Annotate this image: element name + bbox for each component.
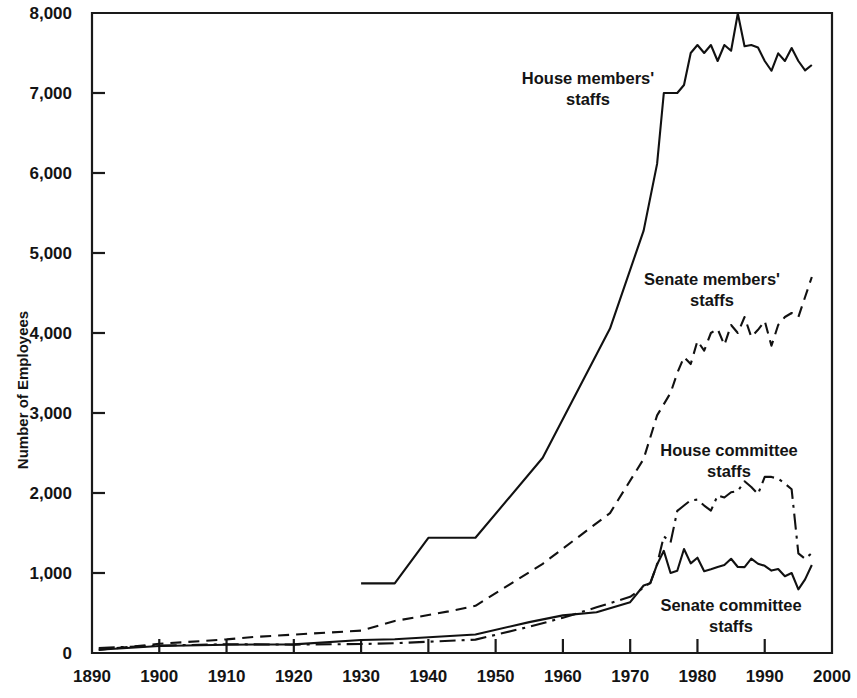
x-tick-label: 1910 bbox=[208, 667, 246, 686]
plot-frame bbox=[92, 13, 832, 653]
y-axis-title: Number of Employees bbox=[14, 311, 31, 469]
x-tick-label: 2000 bbox=[813, 667, 851, 686]
series-label-line: staffs bbox=[707, 462, 751, 480]
axis-frame bbox=[92, 13, 832, 653]
y-tick-label: 4,000 bbox=[29, 324, 72, 343]
x-tick-label: 1950 bbox=[477, 667, 515, 686]
series-label-0: House members'staffs bbox=[522, 69, 654, 108]
y-tick-label: 0 bbox=[63, 644, 72, 663]
y-tick-label: 1,000 bbox=[29, 564, 72, 583]
y-tick-label: 3,000 bbox=[29, 404, 72, 423]
y-tick-label: 7,000 bbox=[29, 84, 72, 103]
y-tick-label: 5,000 bbox=[29, 244, 72, 263]
chart-container: 01,0002,0003,0004,0005,0006,0007,0008,00… bbox=[0, 0, 857, 698]
x-tick-label: 1920 bbox=[275, 667, 313, 686]
y-axis-tick-labels: 01,0002,0003,0004,0005,0006,0007,0008,00… bbox=[29, 4, 72, 663]
series-label-1: Senate members'staffs bbox=[644, 270, 780, 309]
series-label-line: staffs bbox=[690, 291, 734, 309]
x-tick-label: 1890 bbox=[73, 667, 111, 686]
y-tick-label: 6,000 bbox=[29, 164, 72, 183]
x-tick-label: 1990 bbox=[746, 667, 784, 686]
y-tick-label: 2,000 bbox=[29, 484, 72, 503]
series-label-line: House committee bbox=[660, 441, 798, 459]
y-axis-ticks bbox=[92, 93, 105, 573]
line-chart: 01,0002,0003,0004,0005,0006,0007,0008,00… bbox=[0, 0, 857, 698]
x-axis-tick-labels: 1890190019101920193019401950196019701980… bbox=[73, 667, 851, 686]
y-axis-title-group: Number of Employees bbox=[14, 311, 31, 469]
x-tick-label: 1940 bbox=[409, 667, 447, 686]
series-annotations-group: House members'staffsSenate members'staff… bbox=[522, 69, 802, 635]
series-label-line: staffs bbox=[566, 90, 610, 108]
series-label-line: House members' bbox=[522, 69, 654, 87]
x-tick-label: 1930 bbox=[342, 667, 380, 686]
series-label-line: staffs bbox=[709, 617, 753, 635]
series-label-line: Senate committee bbox=[660, 596, 801, 614]
data-series-group bbox=[99, 13, 812, 649]
series-label-3: Senate committeestaffs bbox=[660, 596, 801, 635]
series-label-2: House committeestaffs bbox=[660, 441, 798, 480]
x-tick-label: 1900 bbox=[140, 667, 178, 686]
y-tick-label: 8,000 bbox=[29, 4, 72, 23]
series-label-line: Senate members' bbox=[644, 270, 780, 288]
x-tick-label: 1970 bbox=[611, 667, 649, 686]
x-tick-label: 1980 bbox=[679, 667, 717, 686]
x-tick-label: 1960 bbox=[544, 667, 582, 686]
series-line-1 bbox=[99, 277, 812, 650]
series-line-2 bbox=[99, 477, 812, 648]
